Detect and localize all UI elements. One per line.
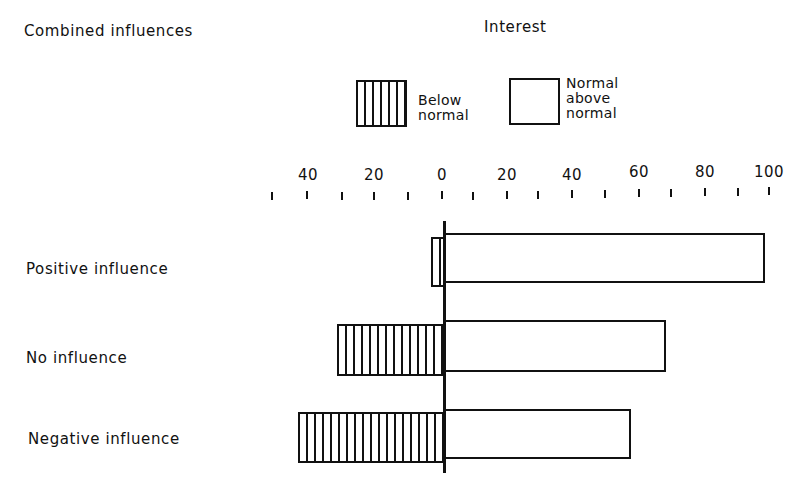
tick-mark — [341, 192, 343, 200]
legend-above-line2: above — [566, 91, 618, 106]
tick-label-right-40: 40 — [562, 166, 582, 184]
bar-none-above-normal — [444, 320, 666, 372]
row-label-negative: Negative influence — [28, 432, 180, 447]
tick-mark — [472, 192, 474, 200]
chart-title: Interest — [484, 20, 547, 35]
tick-mark — [441, 191, 443, 199]
tick-mark — [407, 192, 409, 200]
tick-label-right-80: 80 — [695, 163, 715, 181]
tick-mark — [638, 189, 640, 197]
tick-mark — [306, 191, 308, 199]
row-header-title: Combined influences — [24, 24, 193, 39]
tick-label-right-20: 20 — [497, 166, 517, 184]
tick-mark — [373, 192, 375, 200]
tick-label-right-100: 100 — [754, 163, 784, 181]
bar-negative-above-normal — [444, 409, 631, 459]
tick-mark — [271, 192, 273, 200]
legend-below-normal-label: Below normal — [418, 93, 469, 123]
bar-positive-above-normal — [444, 233, 765, 283]
tick-mark — [768, 187, 770, 195]
tick-mark — [670, 189, 672, 197]
tick-mark — [737, 188, 739, 196]
tick-mark — [604, 190, 606, 198]
tick-mark — [506, 191, 508, 199]
legend-above-line3: normal — [566, 106, 618, 121]
legend-above-normal-swatch — [509, 78, 560, 125]
legend-above-line1: Normal — [566, 76, 618, 91]
tick-label-left-40: 40 — [298, 166, 318, 184]
bar-negative-below-normal — [298, 412, 446, 463]
tick-mark — [704, 188, 706, 196]
legend-above-normal-label: Normal above normal — [566, 76, 618, 121]
zero-baseline — [443, 221, 446, 473]
bar-none-below-normal — [337, 324, 446, 376]
row-label-none: No influence — [26, 351, 127, 366]
tick-label-right-60: 60 — [629, 163, 649, 181]
legend-below-line1: Below — [418, 93, 469, 108]
tick-mark — [571, 190, 573, 198]
tick-label-zero: 0 — [437, 166, 447, 184]
legend-below-line2: normal — [418, 108, 469, 123]
legend-below-normal-swatch — [356, 80, 407, 127]
tick-label-left-20: 20 — [364, 166, 384, 184]
row-label-positive: Positive influence — [26, 262, 168, 277]
tick-mark — [537, 191, 539, 199]
